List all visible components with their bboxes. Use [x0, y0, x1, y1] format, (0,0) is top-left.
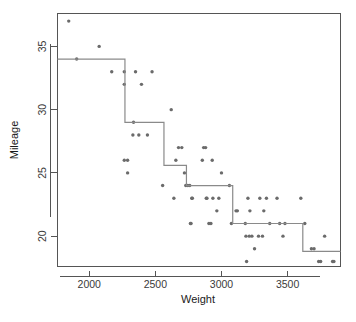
data-point	[180, 146, 183, 149]
data-point	[146, 133, 149, 136]
y-tick-group: 20253035	[36, 40, 57, 242]
data-point	[265, 196, 268, 199]
data-point	[299, 196, 302, 199]
data-point	[170, 108, 173, 111]
data-point	[319, 260, 322, 263]
data-point	[246, 196, 249, 199]
data-point	[137, 133, 140, 136]
data-point	[220, 171, 223, 174]
y-tick-label: 20	[36, 230, 48, 242]
y-tick-label: 35	[36, 40, 48, 52]
x-tick-label: 3000	[210, 278, 234, 290]
y-tick-label: 25	[36, 167, 48, 179]
data-point	[123, 159, 126, 162]
plot-panel-border	[58, 14, 341, 267]
data-point	[257, 234, 260, 237]
y-tick-label: 30	[36, 104, 48, 116]
data-point	[150, 70, 153, 73]
data-point	[205, 196, 208, 199]
data-point	[126, 171, 129, 174]
data-point	[332, 260, 335, 263]
data-point	[204, 146, 207, 149]
data-point	[312, 247, 315, 250]
data-point	[67, 19, 70, 22]
data-point	[323, 234, 326, 237]
data-point	[177, 146, 180, 149]
data-point	[191, 196, 194, 199]
data-points-group	[67, 19, 336, 263]
data-point	[217, 196, 220, 199]
data-point	[189, 222, 192, 225]
data-point	[209, 222, 212, 225]
step-function-line	[58, 59, 341, 251]
data-point	[253, 247, 256, 250]
data-point	[110, 70, 113, 73]
data-point	[140, 83, 143, 86]
chart-canvas: 20253035 2000250030003500 Weight Mileage	[0, 0, 356, 322]
x-tick-label: 2500	[144, 278, 168, 290]
x-axis-title: Weight	[181, 293, 215, 305]
data-point	[134, 70, 137, 73]
x-tick-label: 3500	[276, 278, 300, 290]
data-point	[183, 171, 186, 174]
data-point	[262, 209, 265, 212]
x-axis: 2000250030003500	[60, 271, 320, 291]
y-axis: 20253035	[36, 40, 57, 242]
data-point	[211, 159, 214, 162]
data-point	[245, 260, 248, 263]
data-point	[275, 196, 278, 199]
data-point	[161, 184, 164, 187]
data-point	[126, 159, 129, 162]
data-point	[258, 196, 261, 199]
data-point	[131, 133, 134, 136]
data-point	[172, 196, 175, 199]
data-point	[174, 159, 177, 162]
data-point	[261, 234, 264, 237]
data-point	[248, 209, 251, 212]
data-point	[250, 234, 253, 237]
y-axis-title: Mileage	[8, 121, 20, 160]
data-point	[215, 209, 218, 212]
scatter-plot-figure: 20253035 2000250030003500 Weight Mileage	[0, 0, 356, 322]
data-point	[281, 234, 284, 237]
x-tick-label: 2000	[78, 278, 102, 290]
data-point	[97, 45, 100, 48]
data-point	[244, 234, 247, 237]
data-point	[303, 222, 306, 225]
data-point	[201, 159, 204, 162]
data-point	[211, 196, 214, 199]
x-tick-group: 2000250030003500	[78, 271, 300, 291]
data-point	[236, 209, 239, 212]
